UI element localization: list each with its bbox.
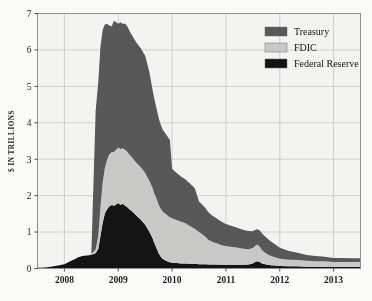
y-tick-label: 6 (27, 45, 32, 55)
y-tick-label: 7 (27, 9, 32, 19)
y-tick-label: 2 (27, 191, 32, 201)
y-tick-label: 0 (27, 264, 32, 274)
y-tick-label: 1 (27, 227, 32, 237)
y-tick-label: 4 (27, 118, 32, 128)
x-tick-label: 2010 (163, 275, 182, 285)
x-tick-label: 2008 (55, 275, 74, 285)
legend-label-federal-reserve: Federal Reserve (294, 58, 359, 69)
y-tick-label: 5 (27, 82, 32, 92)
stacked-area-chart: 01234567200820092010201120122013$ IN TRI… (0, 0, 372, 301)
y-tick-label: 3 (27, 155, 32, 165)
legend-swatch-federal-reserve (265, 59, 287, 68)
legend-swatch-treasury (265, 27, 287, 36)
legend-label-treasury: Treasury (294, 26, 329, 37)
legend-label-fdic: FDIC (294, 42, 317, 53)
x-tick-label: 2011 (217, 275, 236, 285)
x-tick-label: 2012 (270, 275, 289, 285)
y-axis-title: $ IN TRILLIONS (8, 110, 16, 172)
chart-container: 01234567200820092010201120122013$ IN TRI… (0, 0, 372, 301)
legend-swatch-fdic (265, 43, 287, 52)
x-tick-label: 2013 (324, 275, 343, 285)
x-tick-label: 2009 (109, 275, 128, 285)
